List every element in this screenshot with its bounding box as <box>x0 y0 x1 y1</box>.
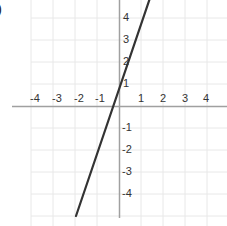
svg-text:2: 2 <box>160 92 166 104</box>
y-tick-labels: 4 3 2 1 -1 -2 -3 -4 <box>122 11 132 199</box>
svg-text:1: 1 <box>123 77 129 89</box>
svg-text:-3: -3 <box>52 92 62 104</box>
svg-text:3: 3 <box>123 33 129 45</box>
svg-text:-2: -2 <box>74 92 84 104</box>
svg-text:-1: -1 <box>95 92 105 104</box>
coordinate-plane: -4 -3 -2 -1 1 2 3 4 4 3 2 1 -1 -2 -3 -4 <box>0 0 227 226</box>
svg-text:1: 1 <box>138 92 144 104</box>
svg-text:3: 3 <box>182 92 188 104</box>
svg-text:-4: -4 <box>30 92 40 104</box>
svg-text:-1: -1 <box>122 121 132 133</box>
svg-text:-4: -4 <box>122 187 132 199</box>
svg-text:4: 4 <box>203 92 209 104</box>
svg-text:-3: -3 <box>122 165 132 177</box>
plotted-line <box>76 0 150 216</box>
svg-text:-2: -2 <box>122 143 132 155</box>
svg-text:4: 4 <box>123 11 129 23</box>
